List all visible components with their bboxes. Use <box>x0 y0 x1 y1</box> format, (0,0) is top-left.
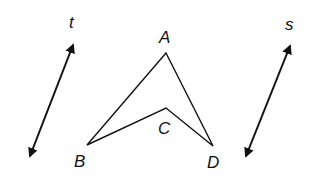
label-t: t <box>69 13 75 32</box>
quadrilateral-abdc <box>87 53 213 146</box>
label-b: B <box>74 152 85 171</box>
geometry-figure: t s A B C D <box>0 0 315 180</box>
label-a: A <box>158 28 170 47</box>
line-t <box>30 45 73 156</box>
label-d: D <box>207 153 219 172</box>
line-s <box>246 46 290 156</box>
label-c: C <box>158 119 171 138</box>
label-s: s <box>285 15 294 34</box>
diagram-canvas: t s A B C D <box>0 0 315 180</box>
